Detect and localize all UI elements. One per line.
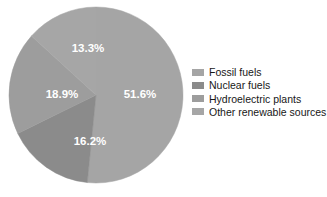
legend-swatch-icon (192, 82, 204, 89)
legend-item-label: Hydroelectric plants (209, 93, 301, 105)
legend-item[interactable]: Other renewable sources (192, 106, 327, 119)
legend-swatch-icon (192, 69, 204, 76)
legend-item-label: Fossil fuels (209, 66, 262, 78)
pie-slice-group (9, 7, 183, 183)
legend-item-label: Nuclear fuels (209, 79, 270, 91)
pie-slice-label: 13.3% (72, 42, 105, 54)
chart-plot-area: 51.6%16.2%18.9%13.3% (0, 0, 190, 197)
chart-legend: Fossil fuelsNuclear fuelsHydroelectric p… (192, 66, 327, 119)
pie-slice-label: 51.6% (124, 88, 157, 100)
pie-chart-svg: 51.6%16.2%18.9%13.3% (8, 6, 184, 184)
legend-item[interactable]: Fossil fuels (192, 66, 327, 79)
legend-swatch-icon (192, 95, 204, 102)
legend-item-label: Other renewable sources (209, 106, 326, 118)
pie-slice-label: 16.2% (74, 135, 107, 147)
legend-swatch-icon (192, 108, 204, 115)
pie-chart-figure: 51.6%16.2%18.9%13.3% Fossil fuelsNuclear… (0, 0, 327, 197)
legend-item[interactable]: Nuclear fuels (192, 79, 327, 92)
pie-slice-label: 18.9% (46, 88, 79, 100)
legend-item[interactable]: Hydroelectric plants (192, 92, 327, 105)
